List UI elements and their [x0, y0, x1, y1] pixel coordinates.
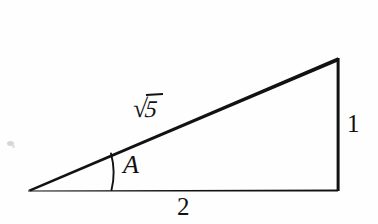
hypotenuse-length-label: √5 — [133, 93, 157, 122]
base-length-label: 2 — [177, 194, 190, 219]
triangle-drawing — [0, 0, 378, 224]
scan-artifact-speck-small — [12, 145, 15, 148]
triangle-hypotenuse-line — [29, 57, 339, 191]
triangle-base-line — [28, 190, 338, 192]
height-length-label: 1 — [347, 111, 360, 136]
angle-label: A — [123, 152, 139, 178]
angle-arc — [111, 154, 114, 191]
radicand-value: 5 — [144, 97, 159, 121]
triangle-figure: √5 A 2 1 — [0, 0, 378, 224]
triangle-vertical-line — [337, 58, 340, 191]
